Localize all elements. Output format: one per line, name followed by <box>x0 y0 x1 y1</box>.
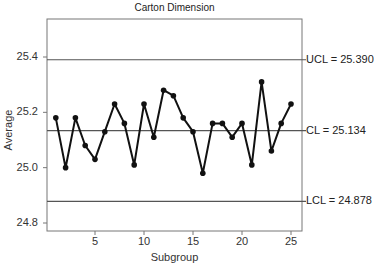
data-point <box>73 115 79 121</box>
data-point <box>102 129 108 135</box>
data-point <box>278 121 284 127</box>
x-tick-label: 10 <box>134 235 154 247</box>
y-tick-label: 25.2 <box>0 105 38 117</box>
data-point <box>249 162 255 168</box>
data-point <box>269 148 275 154</box>
data-point <box>180 115 186 121</box>
lcl-label: LCL = 24.878 <box>306 194 372 206</box>
x-tick-label: 15 <box>183 235 203 247</box>
data-point <box>220 121 226 127</box>
y-tick-label: 25.4 <box>0 50 38 62</box>
x-axis-label: Subgroup <box>47 251 302 263</box>
data-point <box>200 170 206 176</box>
ucl-label: UCL = 25.390 <box>306 53 374 65</box>
data-point <box>190 129 196 135</box>
x-tick-label: 20 <box>232 235 252 247</box>
data-point <box>210 121 216 127</box>
data-point <box>141 101 147 107</box>
chart-title: Carton Dimension <box>47 2 302 13</box>
data-point <box>63 165 69 171</box>
data-point <box>131 162 137 168</box>
data-markers <box>53 79 294 176</box>
y-tick-label: 24.8 <box>0 216 38 228</box>
data-point <box>171 93 177 99</box>
data-point <box>92 157 98 163</box>
x-tick-label: 25 <box>281 235 301 247</box>
plot-frame <box>47 19 302 231</box>
data-point <box>161 87 167 93</box>
data-point <box>229 134 235 140</box>
data-point <box>82 143 88 149</box>
data-point <box>259 79 265 85</box>
control-limit-lines <box>47 60 306 202</box>
data-point <box>53 115 59 121</box>
data-point <box>151 134 157 140</box>
data-point <box>122 121 128 127</box>
data-point <box>112 101 118 107</box>
y-tick-label: 25.0 <box>0 161 38 173</box>
x-tick-label: 5 <box>85 235 105 247</box>
cl-label: CL = 25.134 <box>306 124 366 136</box>
data-point <box>288 101 294 107</box>
data-point <box>239 121 245 127</box>
